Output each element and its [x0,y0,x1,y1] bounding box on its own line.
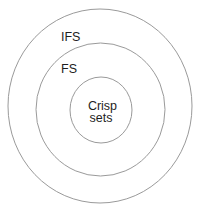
nested-sets-diagram: IFS FS Crisp sets [0,0,204,211]
label-fs: FS [61,62,77,76]
label-sets: sets [90,111,113,125]
label-ifs: IFS [61,30,80,44]
